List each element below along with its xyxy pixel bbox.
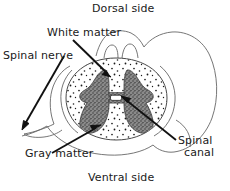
label-dorsal-side: Dorsal side [92, 3, 154, 15]
spinal-cord-diagram: Dorsal side White matter Spinal nerve Gr… [0, 0, 230, 191]
label-gray-matter: Gray matter [25, 148, 93, 160]
label-spinal-canal-line2: canal [178, 147, 214, 159]
spinal-canal-opening [111, 95, 122, 100]
label-spinal-canal: Spinalcanal [178, 135, 214, 159]
leader-spinal-nerve [22, 56, 64, 130]
label-spinal-nerve: Spinal nerve [3, 50, 73, 62]
label-ventral-side: Ventral side [88, 172, 154, 184]
label-white-matter: White matter [47, 27, 121, 39]
